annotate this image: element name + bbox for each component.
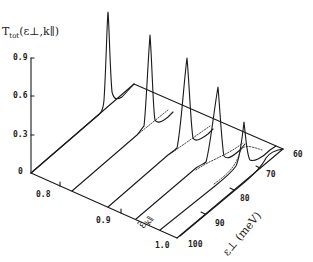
k-tick-1.0: 1.0 xyxy=(155,241,169,250)
z-tick-0.6: 0.6 xyxy=(13,91,27,100)
k-tick-0.9: 0.9 xyxy=(96,216,110,225)
z-tick-0.9: 0.9 xyxy=(13,53,27,62)
e-tick-70: 70 xyxy=(266,170,276,179)
k-tick-0.8: 0.8 xyxy=(36,190,50,199)
slice-3 xyxy=(108,58,213,207)
z-axis-label: Ttot(ε⊥,k∥) xyxy=(2,25,59,40)
z-tick-0.3: 0.3 xyxy=(13,130,27,139)
k-axis xyxy=(31,173,177,238)
base-back-edge xyxy=(134,84,283,149)
e-tick-90: 90 xyxy=(215,219,225,228)
e-tick-60: 60 xyxy=(293,150,303,159)
e-tick-80: 80 xyxy=(240,194,250,203)
e-tick-100: 100 xyxy=(188,240,202,249)
slice-2 xyxy=(72,35,173,191)
z-tick-0: 0 xyxy=(18,167,23,176)
